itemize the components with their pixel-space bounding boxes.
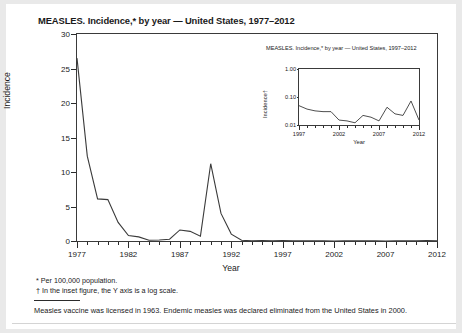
inset-x-tick-minor [355,126,356,128]
x-tick-minor [118,242,119,245]
inset-plot-area [298,68,420,126]
x-axis-tick-marks [76,242,438,249]
caption-divider [34,300,80,301]
x-tick-major [180,242,181,248]
inset-x-tick-minor [363,126,364,128]
x-tick-minor [190,242,191,245]
inset-x-tick-minor [307,126,308,128]
inset-x-tick-minor [411,126,412,128]
footnotes: * Per 100,000 population. † In the inset… [36,276,178,296]
y-tick-label: 15 [61,133,70,142]
x-tick-minor [242,242,243,245]
x-tick-minor [262,242,263,245]
x-axis-title: Year [6,263,456,273]
x-tick-minor [211,242,212,245]
y-tick-label: 20 [61,99,70,108]
caption-text: Measles vaccine was licensed in 1963. En… [34,305,434,316]
inset-y-tick-label: 0.01 [285,122,296,128]
y-tick-label: 30 [61,30,70,39]
inset-y-tick-label: 1.00 [285,66,296,72]
x-tick-minor [303,242,304,245]
x-tick-minor [416,242,417,245]
x-tick-minor [221,242,222,245]
x-tick-minor [293,242,294,245]
y-axis-tick-labels: 051015202530 [46,33,70,242]
x-tick-minor [375,242,376,245]
x-tick-minor [355,242,356,245]
x-tick-minor [427,242,428,245]
x-tick-major [128,242,129,248]
x-tick-minor [396,242,397,245]
x-tick-minor [98,242,99,245]
inset-x-tick-minor [403,126,404,128]
inset-x-tick-label: 1997 [293,131,305,137]
x-tick-label: 2012 [428,250,446,259]
y-axis-title: Incidence [2,72,12,109]
inset-x-axis-title: Year [298,139,420,145]
y-tick-label: 10 [61,168,70,177]
x-tick-label: 1997 [274,250,292,259]
x-tick-label: 1992 [222,250,240,259]
x-tick-minor [149,242,150,245]
inset-x-tick-major [299,126,300,130]
x-tick-minor [272,242,273,245]
inset-x-tick-label: 2007 [373,131,385,137]
x-tick-minor [365,242,366,245]
x-tick-major [283,242,284,248]
inset-chart: MEASLES. Incidence,* by year — United St… [256,42,432,150]
x-tick-major [231,242,232,248]
x-tick-minor [159,242,160,245]
x-tick-minor [200,242,201,245]
inset-x-tick-minor [371,126,372,128]
inset-y-tick-label: 0.10 [285,94,296,100]
inset-x-tick-label: 2012 [413,131,425,137]
x-tick-minor [406,242,407,245]
footnote-2: † In the inset figure, the Y axis is a l… [36,286,178,296]
x-tick-major [437,242,438,248]
inset-y-axis-title: Incidence† [262,90,268,118]
chart-title: MEASLES. Incidence,* by year — United St… [38,15,295,26]
x-tick-label: 1987 [171,250,189,259]
inset-x-tick-minor [331,126,332,128]
x-tick-label: 2007 [377,250,395,259]
x-tick-label: 1977 [68,250,86,259]
x-tick-major [77,242,78,248]
inset-x-tick-label: 2002 [333,131,345,137]
x-tick-minor [252,242,253,245]
x-tick-minor [108,242,109,245]
x-tick-minor [139,242,140,245]
figure-bottom-divider [12,323,456,324]
inset-chart-title: MEASLES. Incidence,* by year — United St… [266,44,426,52]
inset-x-tick-major [419,126,420,130]
footnote-1: * Per 100,000 population. [36,276,178,286]
x-tick-label: 1982 [120,250,138,259]
inset-x-tick-minor [387,126,388,128]
inset-x-tick-minor [395,126,396,128]
x-tick-label: 2002 [325,250,343,259]
inset-x-tick-major [339,126,340,130]
figure-panel: MEASLES. Incidence,* by year — United St… [6,4,456,329]
x-tick-major [386,242,387,248]
y-tick-label: 25 [61,64,70,73]
x-tick-minor [344,242,345,245]
x-axis-tick-labels: 19771982198719921997200220072012 [76,250,438,262]
x-tick-minor [314,242,315,245]
x-tick-minor [87,242,88,245]
x-tick-minor [170,242,171,245]
x-tick-major [334,242,335,248]
inset-x-tick-major [379,126,380,130]
inset-x-tick-minor [323,126,324,128]
inset-x-tick-minor [315,126,316,128]
inset-x-tick-minor [347,126,348,128]
inset-y-axis-tick-labels: 0.010.101.00 [270,68,296,126]
x-tick-minor [324,242,325,245]
inset-series-line [299,69,419,125]
